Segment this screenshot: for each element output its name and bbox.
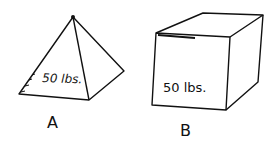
pyramid-caption: A xyxy=(47,113,58,132)
box-figure-b xyxy=(152,13,263,110)
pyramid-weight-label: 50 lbs. xyxy=(42,71,83,86)
pyramid-figure-a xyxy=(19,16,124,100)
box-weight-label: 50 lbs. xyxy=(163,80,206,95)
box-caption: B xyxy=(180,121,191,140)
diagram-canvas: 50 lbs. A 50 lbs. B xyxy=(0,0,275,143)
